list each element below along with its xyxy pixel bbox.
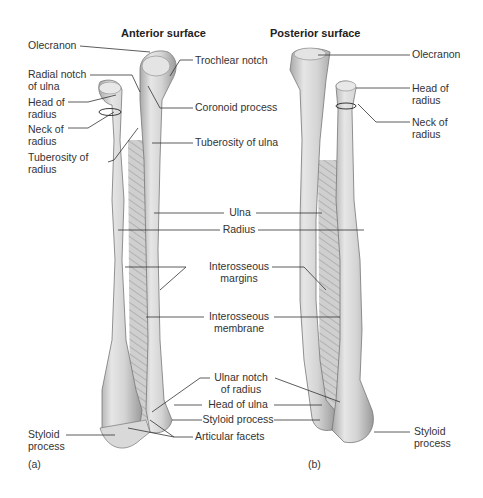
anterior-view xyxy=(99,51,176,448)
label-styloid-process-b: Styloid process xyxy=(414,426,451,449)
label-head-of-radius-a: Head of radius xyxy=(28,97,65,120)
label-olecranon-a: Olecranon xyxy=(28,40,76,52)
label-tuberosity-of-ulna: Tuberosity of ulna xyxy=(195,137,278,149)
label-neck-of-radius-b: Neck of radius xyxy=(412,117,448,140)
label-head-of-ulna: Head of ulna xyxy=(202,399,274,411)
label-ulnar-notch-of-radius: Ulnar notch of radius xyxy=(208,372,274,395)
label-radius: Radius xyxy=(220,224,258,236)
label-ulna: Ulna xyxy=(224,207,256,219)
anterior-surface-title: Anterior surface xyxy=(121,27,206,39)
panel-tag-b: (b) xyxy=(308,458,321,470)
label-head-of-radius-b: Head of radius xyxy=(412,83,449,106)
label-coronoid-process: Coronoid process xyxy=(195,102,277,114)
label-styloid-process-a: Styloid process xyxy=(28,429,65,452)
label-tuberosity-of-radius: Tuberosity of radius xyxy=(28,152,88,175)
label-neck-of-radius-a: Neck of radius xyxy=(28,124,64,147)
posterior-surface-title: Posterior surface xyxy=(270,27,360,39)
label-interosseous-membrane: Interosseous membrane xyxy=(204,311,274,334)
label-olecranon-b: Olecranon xyxy=(412,49,460,61)
label-articular-facets: Articular facets xyxy=(195,431,264,443)
label-styloid-process-mid: Styloid process xyxy=(200,414,276,426)
panel-tag-a: (a) xyxy=(28,458,41,470)
label-interosseous-margins: Interosseous margins xyxy=(204,261,274,284)
label-radial-notch-of-ulna: Radial notch of ulna xyxy=(28,69,86,92)
label-trochlear-notch: Trochlear notch xyxy=(195,55,268,67)
